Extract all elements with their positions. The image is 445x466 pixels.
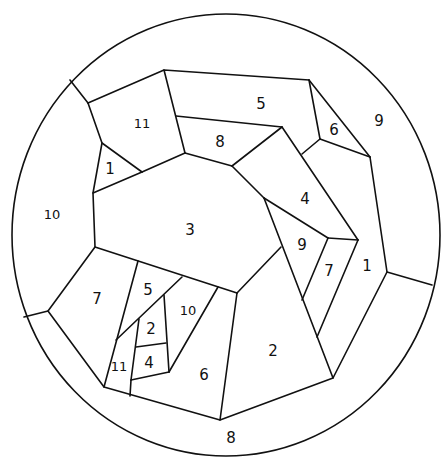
region-label-r5-lower: 5 xyxy=(143,283,153,298)
edge-1-bottom xyxy=(93,172,142,193)
region-label-r2-large: 2 xyxy=(268,344,278,359)
region-label-r11-lower: 11 xyxy=(111,360,128,373)
divider-right xyxy=(387,272,432,285)
divider-top-left xyxy=(70,80,88,103)
region-label-r8-bottom: 8 xyxy=(226,431,236,446)
edge-4-right xyxy=(282,127,358,240)
edge-2-4 xyxy=(136,343,166,347)
region-label-r5-top: 5 xyxy=(256,97,266,112)
outer-circle xyxy=(12,14,440,456)
inner-boundary xyxy=(88,70,309,103)
edge-8-3 xyxy=(185,153,232,166)
region-label-r9-right: 9 xyxy=(374,114,384,129)
region-label-r4-small: 4 xyxy=(144,356,154,371)
region-label-r6-top: 6 xyxy=(329,123,339,138)
region-label-r6-lower: 6 xyxy=(199,368,209,383)
edge-5-6 xyxy=(309,80,320,139)
region-label-r9-mid: 9 xyxy=(297,238,307,253)
edge-11-right xyxy=(164,70,185,153)
edge-4-bottom xyxy=(131,372,169,380)
edge-4-3 xyxy=(232,166,264,198)
edge-2-left xyxy=(131,319,139,380)
region-diagram xyxy=(0,0,445,466)
region-label-r10-left: 10 xyxy=(44,208,61,221)
region-label-r1-right: 1 xyxy=(362,259,372,274)
edge-6-left xyxy=(302,139,320,154)
edge-2-6 xyxy=(220,293,237,420)
edge-3-bottom-a xyxy=(95,247,237,293)
inner-boundary-right xyxy=(48,103,387,420)
edge-7-1 xyxy=(317,240,358,337)
region-label-r10-lower: 10 xyxy=(180,304,197,317)
region-label-r11-top: 11 xyxy=(134,117,151,130)
edge-10-6 xyxy=(169,287,218,372)
region-label-r8-top: 8 xyxy=(215,135,225,150)
region-label-r1-left: 1 xyxy=(105,162,115,177)
region-label-r2-small: 2 xyxy=(146,322,156,337)
edge-2-right xyxy=(164,295,169,372)
edge-8-4 xyxy=(232,127,282,166)
region-label-r3-center: 3 xyxy=(185,223,195,238)
edge-4-9 xyxy=(264,198,328,238)
region-label-r7-mid: 7 xyxy=(324,264,334,279)
edge-9-7-top xyxy=(328,238,358,240)
edge-3-bottom-b xyxy=(237,247,281,293)
edge-11-bottom-right xyxy=(130,380,131,396)
divider-left xyxy=(24,311,48,317)
region-label-r4-mid: 4 xyxy=(300,192,310,207)
edge-5-8 xyxy=(176,116,282,127)
region-label-r7-left: 7 xyxy=(92,292,102,307)
edge-11-bottom xyxy=(142,153,185,172)
